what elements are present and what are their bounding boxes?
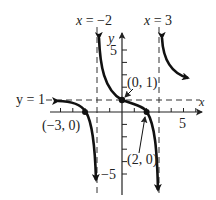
tick-label-x5: 5	[179, 116, 186, 131]
point-neg3-0	[82, 109, 88, 115]
point-0-1	[119, 97, 125, 103]
label-x-axis: x	[198, 95, 205, 109]
label-point-2-0: (2, 0)	[127, 152, 158, 168]
leader-2-0	[139, 117, 145, 153]
point-2-0	[144, 109, 150, 115]
tick-label-yneg5: −5	[101, 167, 116, 182]
label-vertical-asymptote-right: x = 3	[143, 13, 172, 28]
curve-right-branch	[162, 38, 188, 78]
label-point-neg3-0: (−3, 0)	[42, 118, 81, 134]
leader-0-1	[125, 89, 133, 97]
label-vertical-asymptote-left: x = −2	[75, 13, 112, 28]
label-point-0-1: (0, 1)	[127, 75, 158, 91]
rational-function-graph: x = −2 x = 3 y = 1 y x 5 −5 5 (0, 1) (−3…	[0, 0, 216, 200]
tick-label-y5: 5	[110, 43, 117, 58]
curve-left-branch	[58, 101, 96, 180]
label-horizontal-asymptote: y = 1	[16, 92, 45, 107]
graph-canvas: x = −2 x = 3 y = 1 y x 5 −5 5 (0, 1) (−3…	[0, 0, 216, 200]
